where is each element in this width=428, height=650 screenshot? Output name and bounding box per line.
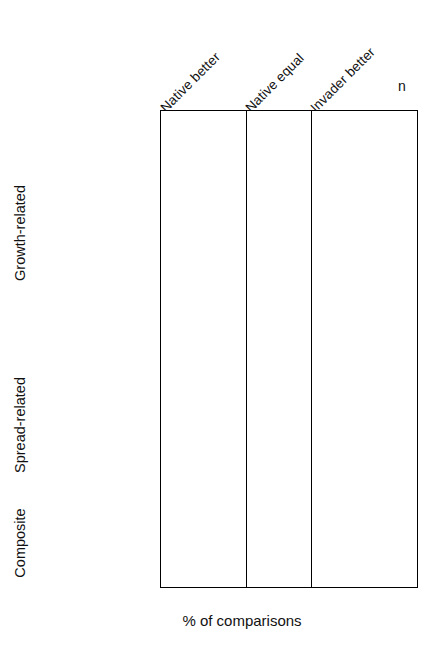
column-header-native-equal: Native equal — [242, 50, 307, 115]
chart-root: Native better Native equal Invader bette… — [0, 0, 428, 650]
axis-title-text: % of comparisons — [182, 612, 301, 629]
n-column-header: n — [398, 78, 406, 94]
column-header-invader-better: Invader better — [307, 44, 378, 115]
group-label-composite: Composite — [12, 483, 28, 603]
plot-frame — [160, 110, 418, 588]
group-label-spread-related: Spread-related — [12, 360, 28, 490]
panel-divider-1 — [246, 111, 247, 587]
group-label-growth-related: Growth-related — [12, 168, 28, 298]
panel-divider-2 — [311, 111, 312, 587]
axis-title: % of comparisons — [0, 612, 428, 629]
column-header-native-better: Native better — [157, 49, 223, 115]
